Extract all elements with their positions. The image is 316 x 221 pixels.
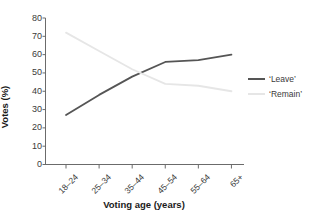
x-tick-marks [66, 165, 231, 169]
legend-item[interactable]: ‘Leave’ [248, 72, 316, 85]
legend-item-label: ‘Leave’ [269, 74, 296, 84]
data-series-line [66, 33, 231, 92]
x-axis-title: Voting age (years) [44, 199, 244, 210]
legend-line-swatch-icon [248, 93, 265, 95]
legend-item-label: ‘Remain’ [269, 89, 302, 99]
data-series-line [66, 55, 231, 115]
plot-area [0, 0, 316, 221]
data-series-group [66, 33, 231, 115]
chart-legend: ‘Leave’‘Remain’ [248, 72, 316, 102]
legend-item[interactable]: ‘Remain’ [248, 87, 316, 100]
chart-figure: Votes (%) 01020304050607080 18–2425–3435… [0, 0, 316, 221]
legend-line-swatch-icon [248, 78, 265, 80]
